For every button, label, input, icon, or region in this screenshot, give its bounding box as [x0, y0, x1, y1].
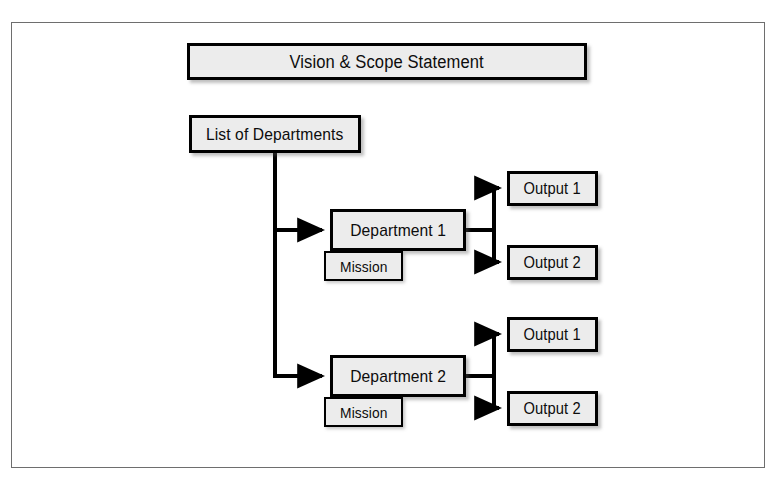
node-list-of-departments[interactable]: List of Departments: [189, 115, 361, 153]
node-output-1-department-2-label: Output 1: [524, 327, 581, 343]
node-list-of-departments-label: List of Departments: [206, 126, 343, 143]
node-output-2-department-2-label: Output 2: [524, 401, 581, 417]
node-department-1[interactable]: Department 1: [330, 209, 466, 251]
node-output-1-department-2[interactable]: Output 1: [507, 317, 598, 352]
node-department-2-label: Department 2: [350, 368, 446, 385]
figure-frame: Vision & Scope Statement List of Departm…: [11, 22, 765, 468]
node-mission-department-1[interactable]: Mission: [324, 251, 403, 281]
node-department-1-label: Department 1: [350, 222, 446, 239]
connector-departments-to-dept-1: [275, 153, 322, 230]
node-output-2-department-1-label: Output 2: [524, 255, 581, 271]
node-output-1-department-1-label: Output 1: [524, 181, 581, 197]
node-vision-scope-statement[interactable]: Vision & Scope Statement: [187, 43, 587, 80]
node-output-2-department-1[interactable]: Output 2: [507, 245, 598, 280]
connector-dept-1-to-output-1: [466, 188, 499, 230]
node-output-1-department-1[interactable]: Output 1: [507, 171, 598, 206]
page-text-remnant-top: [42, 0, 462, 5]
node-vision-scope-statement-label: Vision & Scope Statement: [290, 53, 484, 71]
node-department-2[interactable]: Department 2: [330, 355, 466, 397]
page-text-remnant-bottom: [150, 470, 480, 482]
connector-dept-1-to-output-2: [466, 230, 499, 262]
node-mission-department-2-label: Mission: [340, 405, 387, 420]
node-mission-department-1-label: Mission: [340, 259, 387, 274]
node-output-2-department-2[interactable]: Output 2: [507, 391, 598, 426]
connector-dept-2-to-output-1: [466, 334, 499, 376]
node-mission-department-2[interactable]: Mission: [324, 397, 403, 427]
scanned-page: Vision & Scope Statement List of Departm…: [0, 0, 779, 484]
org-structure-diagram: Vision & Scope Statement List of Departm…: [12, 23, 766, 469]
connector-departments-to-dept-2: [275, 153, 322, 376]
connector-dept-2-to-output-2: [466, 376, 499, 408]
